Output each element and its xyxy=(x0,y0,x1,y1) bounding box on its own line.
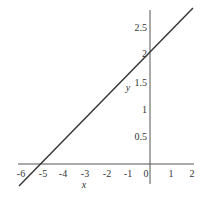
x-tick-labels: -6 -5 -4 -3 -2 -1 0 1 2 xyxy=(17,168,195,179)
y-tick: 2.5 xyxy=(135,22,148,33)
y-tick: 1.5 xyxy=(135,77,148,88)
x-tick: -2 xyxy=(103,168,111,179)
y-tick: 0.5 xyxy=(135,131,148,142)
x-tick: -5 xyxy=(39,168,47,179)
x-tick: -3 xyxy=(81,168,89,179)
x-tick: 0 xyxy=(144,168,149,179)
x-tick: -6 xyxy=(17,168,25,179)
data-line xyxy=(19,8,193,186)
x-tick: 2 xyxy=(190,168,195,179)
x-axis-label: x xyxy=(81,179,87,190)
y-axis-label: y xyxy=(125,82,131,93)
x-tick: -1 xyxy=(124,168,132,179)
y-tick: 1 xyxy=(142,104,147,115)
y-tick-labels: 0.5 1 1.5 2 2.5 xyxy=(135,22,148,142)
x-tick: -4 xyxy=(59,168,67,179)
x-tick: 1 xyxy=(169,168,174,179)
y-tick: 2 xyxy=(142,48,147,59)
line-chart: -6 -5 -4 -3 -2 -1 0 1 2 0.5 1 1.5 2 2.5 … xyxy=(0,0,206,202)
